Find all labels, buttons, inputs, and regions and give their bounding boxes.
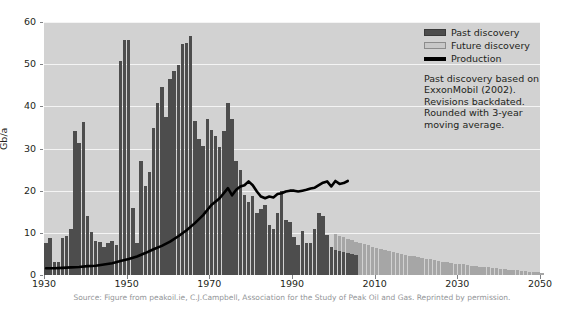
x-tick-1950: 1950 [107,278,147,289]
x-tickmark-2050 [540,275,541,279]
y-tick-50: 50 [6,59,36,68]
x-tickmark-1930 [44,275,45,279]
x-tickmark-1950 [127,275,128,279]
x-tick-2010: 2010 [355,278,395,289]
legend-label-production: Production [451,53,502,64]
y-tickmark-30 [40,149,43,150]
annotation-line-3: Revisions backdated. [424,96,574,107]
y-tick-60: 60 [6,17,36,26]
y-tickmark-0 [40,275,43,276]
annotation-note: Past discovery based on ExxonMobil (2002… [424,73,574,130]
legend-swatch-past-discovery-icon [424,29,446,36]
legend-swatch-production-icon [424,57,446,61]
legend-item-production: Production [424,53,530,64]
figure-peak-oil-discovery-production: Gb/a 0102030405060 193019501970199020102… [0,0,584,313]
y-tickmark-20 [40,191,43,192]
y-tickmark-40 [40,106,43,107]
annotation-line-4: Rounded with 3-year [424,107,574,118]
x-tick-2030: 2030 [437,278,477,289]
x-tick-1990: 1990 [272,278,312,289]
y-tickmark-50 [40,64,43,65]
annotation-line-1: Past discovery based on [424,73,574,84]
legend-swatch-future-discovery-icon [424,42,446,49]
x-tickmark-1990 [292,275,293,279]
y-tick-40: 40 [6,101,36,110]
legend-label-future-discovery: Future discovery [451,40,530,51]
y-tick-20: 20 [6,186,36,195]
annotation-line-5: moving average. [424,119,574,130]
y-tick-30: 30 [6,144,36,153]
legend-item-past-discovery: Past discovery [424,27,530,38]
x-tickmark-2030 [457,275,458,279]
annotation-line-2: ExxonMobil (2002). [424,84,574,95]
x-tickmark-2010 [375,275,376,279]
x-tickmark-1970 [209,275,210,279]
legend: Past discovery Future discovery Producti… [424,27,530,66]
legend-item-future-discovery: Future discovery [424,40,530,51]
production-line [46,181,348,268]
y-tick-10: 10 [6,228,36,237]
y-tickmark-10 [40,233,43,234]
x-tick-2050: 2050 [520,278,560,289]
legend-label-past-discovery: Past discovery [451,27,519,38]
x-tick-1930: 1930 [24,278,64,289]
x-tick-1970: 1970 [189,278,229,289]
y-tickmark-60 [40,22,43,23]
source-caption: Source: Figure from peakoil.ie, C.J.Camp… [0,293,584,302]
